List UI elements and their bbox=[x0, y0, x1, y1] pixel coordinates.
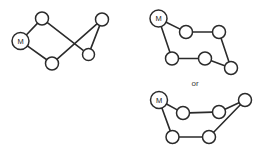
graph-edge bbox=[47, 22, 84, 51]
graph-edge bbox=[211, 61, 226, 66]
bottom-right-graph-group: M bbox=[151, 92, 252, 144]
graph-node bbox=[180, 26, 193, 39]
graph-edge bbox=[166, 104, 178, 110]
graph-edge bbox=[166, 22, 181, 29]
graph-node bbox=[225, 62, 238, 75]
graph-node bbox=[213, 26, 226, 39]
graph-node-label: M bbox=[17, 37, 23, 46]
graph-node bbox=[46, 57, 59, 70]
graph-edge bbox=[27, 46, 47, 60]
graph-node bbox=[83, 49, 95, 61]
graph-node bbox=[177, 107, 190, 120]
graph-edge bbox=[189, 112, 213, 113]
graph-node bbox=[166, 52, 179, 65]
graph-edge bbox=[221, 38, 229, 63]
graph-node bbox=[96, 13, 109, 26]
graph-node bbox=[36, 12, 49, 25]
graph-figure-canvas: M M M or bbox=[0, 0, 262, 153]
graph-edge bbox=[161, 26, 170, 53]
graph-node-label: M bbox=[156, 96, 162, 105]
or-connector-label: or bbox=[191, 79, 198, 88]
graph-node bbox=[203, 131, 216, 144]
figure-container: M M M or bbox=[0, 0, 262, 153]
graph-node bbox=[239, 94, 252, 107]
graph-edge bbox=[162, 108, 171, 132]
graph-node bbox=[166, 131, 179, 144]
graph-node bbox=[199, 52, 212, 65]
graph-node-label: M bbox=[155, 14, 161, 23]
graph-node bbox=[213, 106, 226, 119]
top-right-graph-group: M bbox=[150, 10, 238, 75]
graph-edge bbox=[26, 23, 38, 35]
left-graph-group: M bbox=[12, 12, 109, 70]
